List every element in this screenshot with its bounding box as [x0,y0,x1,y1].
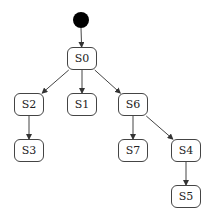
state-node-s4: S4 [171,139,201,162]
state-node-s5: S5 [171,185,201,208]
state-node-s7: S7 [118,139,148,162]
edge-s0-to-s6 [95,70,121,93]
state-node-s3: S3 [14,139,44,162]
edge-initial-to-s0 [81,28,82,47]
edge-s0-to-s2 [42,70,69,93]
initial-state-dot [73,12,89,28]
state-node-s2: S2 [14,93,44,116]
state-node-s1: S1 [67,93,97,116]
edge-s6-to-s4 [146,116,173,139]
state-node-s0: S0 [67,47,97,70]
state-node-s6: S6 [118,93,148,116]
